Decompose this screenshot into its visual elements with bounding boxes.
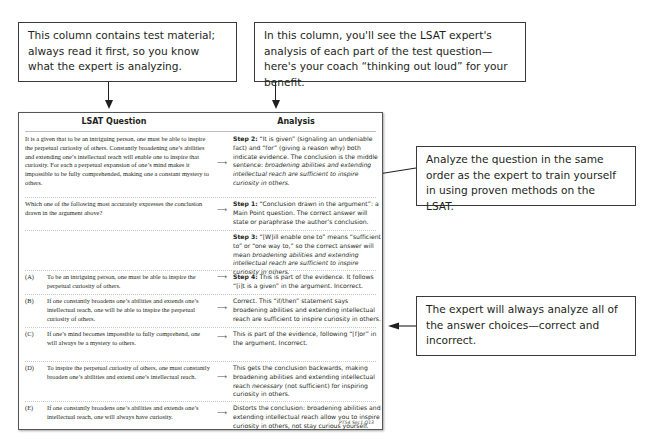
analysis-text: Step 4: This is part of the evidence. It… bbox=[233, 273, 381, 291]
table-row-stem: Which one of the following most accurate… bbox=[19, 200, 382, 230]
choice-body: If one constantly broadens one’s abiliti… bbox=[47, 297, 211, 323]
answer-choice-d: (D)To inspire the perpetual curiosity of… bbox=[19, 364, 382, 400]
step-label: Step 1: bbox=[233, 200, 258, 207]
answer-choice-a: (A)To be an intriguing person, one must … bbox=[19, 273, 382, 295]
arrow-right-icon: ⟶ bbox=[217, 273, 227, 281]
table-row-stimulus: It is a given that to be an intriguing p… bbox=[19, 135, 382, 195]
arrow-right-icon: ⟶ bbox=[217, 333, 227, 341]
source-credit: PT54 Sec1 Q13 bbox=[339, 420, 374, 425]
answer-choice-c: (C)If one’s mind becomes impossible to f… bbox=[19, 330, 382, 360]
choice-letter: (B) bbox=[25, 297, 34, 306]
table-row-prediction: Step 3: “[W]ill enable one to” means “su… bbox=[19, 233, 382, 269]
analysis-text: Step 2: “It is given” (signaling an unde… bbox=[233, 135, 381, 188]
row-divider bbox=[25, 401, 376, 402]
step-label: Step 4: bbox=[233, 273, 258, 280]
arrow-down-icon bbox=[105, 100, 113, 109]
row-divider bbox=[25, 230, 376, 231]
choice-body: To inspire the perpetual curiosity of ot… bbox=[47, 364, 211, 382]
choice-letter: (E) bbox=[25, 404, 33, 413]
question-stem-text: Which one of the following most accurate… bbox=[25, 200, 211, 218]
analysis-italic: necessary bbox=[252, 382, 283, 389]
choice-body: If one’s mind becomes impossible to full… bbox=[47, 330, 211, 348]
column-header-question: LSAT Question bbox=[19, 117, 209, 126]
connector-right-stem bbox=[275, 82, 276, 102]
analysis-text: This gets the conclusion backwards, maki… bbox=[233, 364, 381, 399]
callout-analyze-order: Analyze the question in the same order a… bbox=[416, 146, 636, 206]
connector-left-stem bbox=[108, 82, 109, 102]
row-divider bbox=[25, 361, 376, 362]
step-label: Step 3: bbox=[233, 233, 258, 240]
choice-letter: (D) bbox=[25, 364, 34, 373]
choice-letter: (A) bbox=[25, 273, 34, 282]
arrow-right-icon: ⟶ bbox=[217, 409, 227, 417]
arrow-down-icon bbox=[272, 100, 280, 109]
callout-test-material: This column contains test material; alwa… bbox=[18, 22, 237, 82]
choice-letter: (C) bbox=[25, 330, 34, 339]
header-divider bbox=[25, 131, 376, 132]
row-divider bbox=[25, 327, 376, 328]
analysis-text: This is part of the evidence, following … bbox=[233, 330, 381, 348]
choice-body: If one constantly broadens one’s abiliti… bbox=[47, 404, 211, 422]
arrow-right-icon: ⟶ bbox=[217, 159, 227, 167]
analysis-italic: broadening abilities and extending intel… bbox=[233, 251, 359, 276]
answer-choice-e: (E)If one constantly broadens one’s abil… bbox=[19, 404, 382, 432]
arrow-right-icon: ⟶ bbox=[217, 304, 227, 312]
analysis-text: Distorts the conclusion: broadening abil… bbox=[233, 404, 381, 430]
row-divider bbox=[25, 197, 376, 198]
column-header-analysis: Analysis bbox=[211, 117, 381, 126]
arrow-right-icon: ⟶ bbox=[217, 206, 227, 214]
arrow-right-icon: ⟶ bbox=[217, 373, 227, 381]
row-divider bbox=[25, 270, 376, 271]
lsat-question-table: LSAT Question Analysis It is a given tha… bbox=[18, 112, 383, 430]
stimulus-text: It is a given that to be an intriguing p… bbox=[25, 135, 211, 188]
callout-expert-analysis: In this column, you'll see the LSAT expe… bbox=[254, 22, 526, 82]
callout-all-choices: The expert will always analyze all of th… bbox=[416, 296, 636, 356]
answer-choice-b: (B)If one constantly broadens one’s abil… bbox=[19, 297, 382, 327]
analysis-text: Correct. This “if/then” statement says b… bbox=[233, 297, 381, 323]
step-label: Step 2: bbox=[233, 135, 258, 142]
row-divider bbox=[25, 294, 376, 295]
choice-body: To be an intriguing person, one must be … bbox=[47, 273, 211, 291]
analysis-text: Step 1: “Conclusion drawn in the argumen… bbox=[233, 200, 381, 226]
